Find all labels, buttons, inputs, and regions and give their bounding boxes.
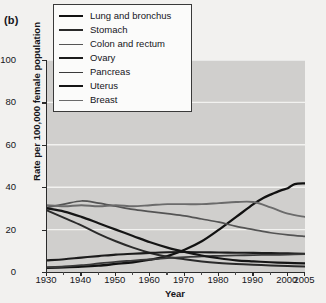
figure-panel: (b) Rate per 100,000 female population 0… bbox=[0, 0, 326, 303]
y-tick-label: 20 bbox=[0, 224, 16, 235]
legend-item-label: Colon and rectum bbox=[90, 39, 165, 49]
x-minor-tick-mark bbox=[201, 272, 202, 275]
legend-item-label: Lung and bronchus bbox=[90, 11, 171, 21]
legend-item-label: Uterus bbox=[90, 81, 118, 91]
y-tick-label: 40 bbox=[0, 181, 16, 192]
x-tick-mark bbox=[218, 272, 219, 276]
x-tick-mark bbox=[46, 272, 47, 276]
y-tick-mark bbox=[42, 187, 46, 188]
panel-letter: (b) bbox=[4, 14, 19, 26]
legend-item-label: Breast bbox=[90, 95, 117, 105]
y-tick-label: 60 bbox=[0, 139, 16, 150]
x-tick-mark bbox=[115, 272, 116, 276]
legend-item: Ovary bbox=[59, 51, 186, 65]
legend-item: Uterus bbox=[59, 79, 186, 93]
x-tick-mark bbox=[149, 272, 150, 276]
x-tick-mark bbox=[252, 272, 253, 276]
legend: Lung and bronchusStomachColon and rectum… bbox=[53, 4, 192, 112]
legend-item: Stomach bbox=[59, 23, 186, 37]
legend-color-swatch bbox=[59, 15, 83, 17]
x-minor-tick-mark bbox=[166, 272, 167, 275]
x-tick-mark bbox=[304, 272, 305, 276]
legend-item: Pancreas bbox=[59, 65, 186, 79]
x-minor-tick-mark bbox=[235, 272, 236, 275]
x-tick-mark bbox=[184, 272, 185, 276]
legend-item-label: Ovary bbox=[90, 53, 115, 63]
x-tick-mark bbox=[287, 272, 288, 276]
x-minor-tick-mark bbox=[132, 272, 133, 275]
x-minor-tick-mark bbox=[63, 272, 64, 275]
x-minor-tick-mark bbox=[270, 272, 271, 275]
y-tick-mark bbox=[42, 60, 46, 61]
y-tick-mark bbox=[42, 102, 46, 103]
legend-color-swatch bbox=[59, 85, 83, 87]
y-tick-mark bbox=[42, 145, 46, 146]
y-tick-label: 0 bbox=[0, 266, 16, 277]
x-axis-title: Year bbox=[46, 288, 304, 299]
legend-color-swatch bbox=[59, 72, 83, 73]
legend-item: Lung and bronchus bbox=[59, 9, 186, 23]
legend-item-label: Pancreas bbox=[90, 67, 130, 77]
x-tick-mark bbox=[80, 272, 81, 276]
legend-item: Colon and rectum bbox=[59, 37, 186, 51]
legend-color-swatch bbox=[59, 44, 83, 45]
legend-item-label: Stomach bbox=[90, 25, 128, 35]
legend-color-swatch bbox=[59, 100, 83, 101]
y-tick-label: 100 bbox=[0, 54, 16, 65]
y-tick-mark bbox=[42, 230, 46, 231]
x-minor-tick-mark bbox=[98, 272, 99, 275]
legend-color-swatch bbox=[59, 57, 83, 59]
y-tick-label: 80 bbox=[0, 96, 16, 107]
legend-item: Breast bbox=[59, 93, 186, 107]
legend-color-swatch bbox=[59, 29, 83, 31]
y-axis-title: Rate per 100,000 female population bbox=[31, 2, 42, 202]
